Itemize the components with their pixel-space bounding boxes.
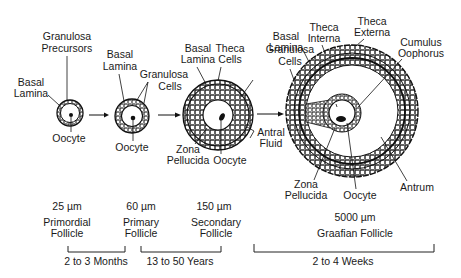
label-basal-lamina-primary: Basal <box>107 48 133 60</box>
label-theca-cells-2: Cells <box>218 53 241 65</box>
duration-label-1: 2 to 3 Months <box>64 255 128 267</box>
label-antrum: Antrum <box>400 181 434 193</box>
arrow-icon <box>158 113 181 118</box>
primary-follicle-drawing <box>115 99 149 133</box>
label-theca-externa-2: Externa <box>354 26 390 38</box>
primordial-size: 25 µm <box>52 200 82 212</box>
label-granulosa-cells-primary: Granulosa <box>140 68 189 80</box>
primordial-follicle-drawing <box>57 100 83 126</box>
arrow-icon <box>89 113 109 118</box>
label-oocyte-primordial: Oocyte <box>52 132 85 144</box>
duration-bracket-2 <box>141 246 221 252</box>
secondary-follicle-drawing <box>183 80 253 150</box>
graafian-size: 5000 µm <box>334 211 375 223</box>
follicle-development-diagram: Granulosa Precursors Basal Lamina Oocyte… <box>0 0 461 278</box>
label-zona-pellucida-graafian-2: Pellucida <box>285 189 328 201</box>
primary-size: 60 µm <box>126 200 156 212</box>
label-basal-lamina-primary-2: Lamina <box>103 60 138 72</box>
secondary-size: 150 µm <box>196 200 231 212</box>
label-granulosa-cells-graafian-2: Cells <box>278 55 301 67</box>
label-basal-lamina-secondary-2: Lamina <box>181 53 216 65</box>
duration-label-2: 13 to 50 Years <box>146 255 213 267</box>
label-zona-pellucida-secondary-2: Pellucida <box>167 154 210 166</box>
secondary-name-2: Follicle <box>200 227 233 239</box>
label-antral-fluid-2: Fluid <box>260 137 283 149</box>
label-oocyte-primary: Oocyte <box>115 141 148 153</box>
label-cumulus-oophorus-2: Oophorus <box>398 47 444 59</box>
label-oocyte-secondary: Oocyte <box>213 154 246 166</box>
primary-name-2: Follicle <box>125 227 158 239</box>
arrow-icon <box>257 112 284 117</box>
graafian-name: Graafian Follicle <box>317 227 393 239</box>
duration-label-3: 2 to 4 Weeks <box>312 255 373 267</box>
primordial-name-2: Follicle <box>51 227 84 239</box>
label-granulosa-precursors: Granulosa <box>43 30 92 42</box>
label-basal-lamina-graafian-2: Lamina <box>269 41 304 53</box>
label-theca-interna-2: Interna <box>308 32 341 44</box>
duration-bracket-3 <box>254 244 434 252</box>
label-basal-lamina-primordial-2: Lamina <box>14 87 49 99</box>
label-granulosa-cells-primary-2: Cells <box>158 80 181 92</box>
duration-bracket-1 <box>68 246 125 252</box>
label-oocyte-graafian: Oocyte <box>343 189 376 201</box>
label-granulosa-precursors-2: Precursors <box>42 42 93 54</box>
